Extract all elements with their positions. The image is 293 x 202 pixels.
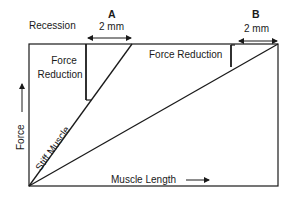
y-axis-label: Force: [16, 124, 26, 150]
label-b: B: [252, 9, 260, 20]
force-reduction-left-line1: Force: [44, 56, 84, 66]
label-b-distance: 2 mm: [244, 24, 269, 34]
recession-label: Recession: [29, 21, 76, 31]
label-a: A: [108, 9, 116, 20]
force-reduction-right: Force Reduction: [149, 50, 222, 60]
x-axis-label: Muscle Length: [111, 175, 176, 185]
label-a-distance: 2 mm: [99, 22, 124, 32]
force-reduction-left-line2: Reduction: [34, 70, 86, 80]
